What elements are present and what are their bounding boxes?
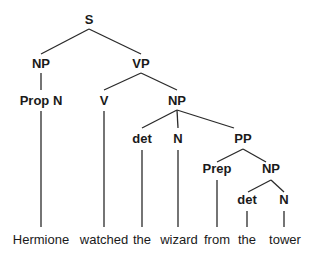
tree-edge bbox=[104, 73, 141, 90]
tree-node-pp: PP bbox=[234, 131, 252, 146]
tree-edge bbox=[89, 29, 141, 54]
tree-nodes: SNPVPProp NVNPdetNPPPrepNPdetN bbox=[20, 12, 289, 207]
tree-node-s: S bbox=[85, 12, 94, 27]
tree-edge bbox=[41, 29, 89, 54]
tree-node-det1: det bbox=[132, 131, 152, 146]
tree-node-vp: VP bbox=[132, 56, 150, 71]
tree-node-np3: NP bbox=[262, 161, 280, 176]
sentence-word: the bbox=[133, 232, 151, 247]
tree-node-v: V bbox=[100, 93, 109, 108]
tree-node-n2: N bbox=[279, 192, 288, 207]
tree-edge bbox=[141, 73, 177, 90]
sentence-words: Hermionewatchedthewizardfromthetower bbox=[13, 232, 302, 247]
tree-edge bbox=[177, 110, 234, 128]
sentence-word: watched bbox=[79, 232, 128, 247]
sentence-word: Hermione bbox=[13, 232, 69, 247]
syntax-tree: SNPVPProp NVNPdetNPPPrepNPdetN Hermionew… bbox=[0, 0, 312, 256]
tree-edge bbox=[248, 180, 271, 192]
tree-node-np1: NP bbox=[32, 56, 50, 71]
tree-edge bbox=[142, 110, 177, 128]
tree-node-det2: det bbox=[237, 192, 257, 207]
tree-node-np2: NP bbox=[168, 93, 186, 108]
tree-node-n1: N bbox=[173, 131, 182, 146]
tree-edge bbox=[177, 110, 178, 128]
sentence-word: wizard bbox=[159, 232, 198, 247]
sentence-word: the bbox=[238, 232, 256, 247]
tree-node-prep: Prep bbox=[203, 161, 232, 176]
tree-edge bbox=[271, 180, 284, 192]
sentence-word: from bbox=[204, 232, 230, 247]
tree-node-propn: Prop N bbox=[20, 93, 63, 108]
sentence-word: tower bbox=[269, 232, 301, 247]
